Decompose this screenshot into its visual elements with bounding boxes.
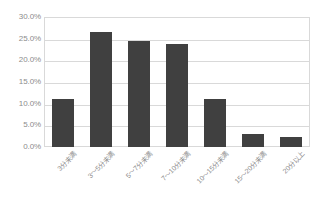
- bars-layer: [44, 17, 310, 147]
- y-tick-label: 5.0%: [0, 121, 41, 129]
- x-tick-label: 15～20分未満: [233, 150, 268, 185]
- bar[interactable]: [52, 99, 74, 147]
- y-tick-label: 30.0%: [0, 13, 41, 21]
- bar-slot: [82, 17, 120, 147]
- x-tick-label: 3～5分未満: [87, 150, 117, 180]
- bar[interactable]: [166, 44, 188, 147]
- bar[interactable]: [204, 99, 226, 147]
- y-tick-label: 0.0%: [0, 143, 41, 151]
- y-tick-label: 25.0%: [0, 35, 41, 43]
- y-tick-label: 10.0%: [0, 100, 41, 108]
- y-tick-label: 20.0%: [0, 56, 41, 64]
- bar-slot: [196, 17, 234, 147]
- bar-slot: [272, 17, 310, 147]
- x-tick-label: 10～15分未満: [195, 150, 230, 185]
- bar[interactable]: [280, 137, 302, 147]
- bar-slot: [234, 17, 272, 147]
- x-axis: 3分未満3～5分未満5～7分未満7～10分未満10～15分未満15～20分未満2…: [44, 148, 310, 200]
- y-tick-label: 15.0%: [0, 78, 41, 86]
- bar-slot: [120, 17, 158, 147]
- bar-slot: [158, 17, 196, 147]
- y-axis: 30.0% 25.0% 20.0% 15.0% 10.0% 5.0% 0.0%: [0, 0, 41, 200]
- bar[interactable]: [90, 32, 112, 147]
- bar[interactable]: [242, 134, 264, 147]
- x-tick-label: 7～10分未満: [160, 150, 193, 183]
- x-tick-label: 5～7分未満: [125, 150, 155, 180]
- x-tick-label: 3分未満: [56, 150, 79, 173]
- bar[interactable]: [128, 41, 150, 147]
- x-tick-label: 20分以上: [281, 150, 306, 175]
- bar-chart: 30.0% 25.0% 20.0% 15.0% 10.0% 5.0% 0.0% …: [0, 0, 322, 200]
- bar-slot: [44, 17, 82, 147]
